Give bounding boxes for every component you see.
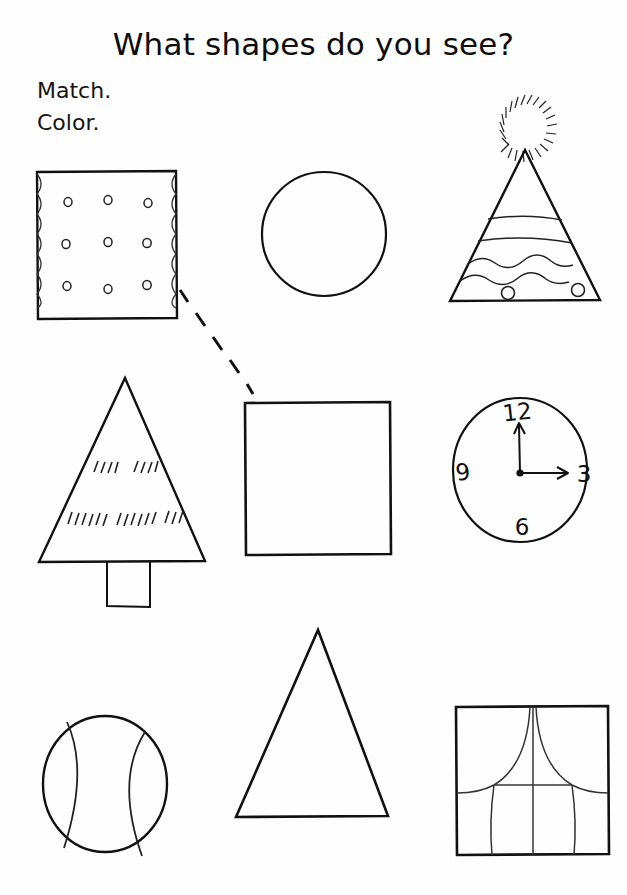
clock-center-dot — [516, 469, 523, 476]
shape-party-hat[interactable]: Party hat — [440, 82, 610, 317]
shape-circle-label: Circle — [258, 300, 259, 301]
shape-circle[interactable]: Circle — [258, 168, 390, 300]
triangle-outline — [236, 630, 388, 817]
shape-pine-tree-label: Tree — [22, 613, 23, 614]
shape-square-label: Square — [240, 560, 241, 561]
party-hat-wavy-lines — [460, 255, 573, 285]
square-outline — [245, 402, 391, 555]
pine-tree-body — [39, 378, 205, 562]
shape-pine-tree[interactable]: Tree — [22, 368, 222, 613]
shape-clock-label: Clock — [446, 550, 447, 551]
shape-window-label: Window — [450, 859, 451, 860]
instruction-match: Match. — [37, 78, 111, 103]
worksheet-page: What shapes do you see? Match. Color. — [0, 0, 627, 895]
cracker-holes — [62, 196, 152, 294]
shape-cracker-label: Cracker — [30, 326, 31, 327]
shape-square[interactable]: Square — [240, 398, 395, 560]
shape-window[interactable]: Window — [450, 694, 615, 859]
shape-clock[interactable]: 12 3 6 9 Clock — [446, 390, 598, 550]
clock-numeral-3: 3 — [577, 461, 592, 487]
party-hat-stripes — [478, 216, 572, 243]
cracker-body — [37, 171, 177, 319]
circle-outline — [262, 172, 386, 296]
clock-numeral-9: 9 — [454, 458, 472, 486]
window-curtains — [457, 707, 608, 855]
shape-baseball-label: Baseball — [35, 857, 36, 858]
page-title: What shapes do you see? — [0, 26, 627, 62]
party-hat-pompom — [500, 95, 557, 162]
shape-baseball[interactable]: Baseball — [35, 712, 180, 857]
shape-party-hat-label: Party hat — [440, 317, 441, 318]
baseball-seams — [64, 722, 145, 856]
instruction-color: Color. — [37, 110, 99, 135]
clock-numeral-12: 12 — [501, 398, 533, 427]
baseball-outline — [43, 716, 167, 852]
cracker-scalloped-edges — [37, 174, 176, 308]
shape-cracker[interactable]: Cracker — [30, 166, 185, 326]
shape-triangle[interactable]: Triangle — [222, 622, 412, 832]
clock-numeral-6: 6 — [515, 514, 530, 540]
shape-triangle-label: Triangle — [222, 832, 223, 833]
pine-tree-trunk — [107, 562, 150, 607]
party-hat-dots — [502, 284, 585, 300]
party-hat-body — [450, 150, 600, 301]
